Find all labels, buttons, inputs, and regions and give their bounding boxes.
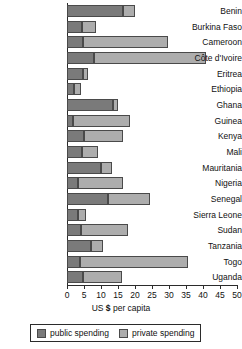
- bar-segment-private: [78, 177, 123, 189]
- bar-segment-private: [73, 115, 130, 127]
- bar-segment-public: [67, 130, 84, 142]
- bar-segment-private: [81, 224, 128, 236]
- category-label: Uganda: [179, 271, 242, 283]
- bar-segment-private: [74, 83, 80, 95]
- category-label: Benin: [179, 5, 242, 17]
- stacked-bar-chart: BeninBurkina FasoCameroonCôte d'IvoireEr…: [0, 0, 242, 349]
- bar-segment-public: [67, 99, 113, 111]
- bar-segment-public: [67, 224, 81, 236]
- bar-segment-public: [67, 5, 123, 17]
- legend-item-public: public spending: [37, 328, 109, 338]
- legend-label-private: private spending: [132, 328, 194, 338]
- bar-segment-private: [123, 5, 135, 17]
- bar-segment-public: [67, 52, 94, 64]
- x-tick: [203, 285, 204, 289]
- bar-segment-public: [67, 256, 80, 268]
- category-label: Kenya: [179, 130, 242, 142]
- x-tick: [220, 285, 221, 289]
- bar-segment-public: [67, 271, 83, 283]
- x-tick: [118, 285, 119, 289]
- bar-segment-private: [101, 162, 112, 174]
- bar-segment-public: [67, 21, 82, 33]
- bar-segment-public: [67, 83, 74, 95]
- x-tick: [67, 285, 68, 289]
- x-tick: [101, 285, 102, 289]
- bar-segment-public: [67, 146, 82, 158]
- bar-segment-private: [91, 240, 103, 252]
- category-label: Eritrea: [179, 68, 242, 80]
- x-tick: [135, 285, 136, 289]
- category-label: Nigeria: [179, 177, 242, 189]
- bar-segment-public: [67, 193, 108, 205]
- x-axis-title-suffix: per capita: [111, 303, 151, 313]
- category-label: Sierra Leone: [179, 209, 242, 221]
- bar-segment-private: [83, 271, 122, 283]
- bar-segment-private: [82, 146, 97, 158]
- x-axis-title-prefix: US: [92, 303, 106, 313]
- x-tick: [169, 285, 170, 289]
- x-axis-title: US $ per capita: [0, 303, 242, 313]
- bar-segment-private: [84, 130, 123, 142]
- bar-segment-private: [108, 193, 150, 205]
- bar-segment-private: [113, 99, 118, 111]
- category-label: Senegal: [179, 193, 242, 205]
- category-label: Cameroon: [179, 36, 242, 48]
- legend-swatch-public-icon: [37, 329, 46, 338]
- x-tick: [84, 285, 85, 289]
- legend-item-private: private spending: [119, 328, 194, 338]
- category-label: Mauritania: [179, 162, 242, 174]
- x-tick-label: 50: [226, 290, 242, 300]
- x-tick: [237, 285, 238, 289]
- bar-segment-public: [67, 68, 83, 80]
- bar-segment-public: [67, 177, 78, 189]
- x-tick: [152, 285, 153, 289]
- bar-segment-private: [80, 256, 187, 268]
- bar-segment-private: [82, 21, 96, 33]
- bar-segment-public: [67, 162, 101, 174]
- category-label: Togo: [179, 256, 242, 268]
- category-label: Sudan: [179, 224, 242, 236]
- legend-swatch-private-icon: [119, 329, 128, 338]
- category-label: Côte d'Ivoire: [179, 52, 242, 64]
- category-label: Burkina Faso: [179, 21, 242, 33]
- bar-segment-private: [83, 68, 88, 80]
- chart-legend: public spending private spending: [30, 324, 201, 342]
- bar-segment-public: [67, 209, 78, 221]
- bar-segment-private: [78, 209, 86, 221]
- category-label: Mali: [179, 146, 242, 158]
- category-label: Ethiopia: [179, 83, 242, 95]
- x-tick: [186, 285, 187, 289]
- bar-segment-public: [67, 36, 83, 48]
- bar-segment-private: [83, 36, 168, 48]
- category-label: Tanzania: [179, 240, 242, 252]
- category-label: Ghana: [179, 99, 242, 111]
- bar-segment-public: [67, 240, 91, 252]
- legend-label-public: public spending: [50, 328, 109, 338]
- category-label: Guinea: [179, 115, 242, 127]
